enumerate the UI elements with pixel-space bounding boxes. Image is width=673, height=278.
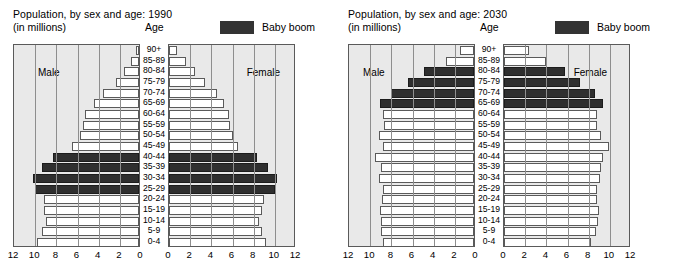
age-label: 5-9 — [475, 226, 503, 235]
bar-population — [504, 217, 598, 226]
bar-baby-boom — [408, 78, 474, 87]
legend-label-baby-boom: Baby boom — [597, 21, 650, 34]
bar-population — [504, 131, 601, 140]
age-label: 15-19 — [140, 205, 168, 214]
age-label: 80-84 — [140, 66, 168, 75]
chart-subtitle-1990: (in millions) — [13, 21, 66, 34]
age-label: 40-44 — [475, 152, 503, 161]
chart-title-2030: Population, by sex and age: 2030 — [348, 8, 507, 21]
gridline-10 — [275, 45, 276, 246]
age-label: 50-54 — [475, 130, 503, 139]
gridline-8 — [56, 45, 57, 246]
bar-population — [169, 238, 266, 247]
age-label: 25-29 — [475, 184, 503, 193]
bar-baby-boom — [35, 185, 139, 194]
age-label: 35-39 — [140, 162, 168, 171]
axis-tick: 6 — [224, 249, 240, 261]
age-label: 75-79 — [140, 77, 168, 86]
axis-tick: 2 — [516, 249, 532, 261]
age-label-column-2030: 90+85-8980-8475-7970-7465-6960-6455-5950… — [475, 44, 503, 247]
gridline-6 — [413, 45, 414, 246]
bar-population — [504, 185, 597, 194]
bar-population — [94, 99, 140, 108]
axis-tick: 8 — [382, 249, 398, 261]
gridline-2 — [525, 45, 526, 246]
axis-tick: 10 — [601, 249, 617, 261]
bar-population — [72, 142, 139, 151]
bar-population — [169, 46, 177, 55]
bar-population — [504, 110, 597, 119]
bar-population — [44, 195, 139, 204]
bar-population — [375, 153, 474, 162]
bar-population — [131, 57, 139, 66]
bar-population — [124, 67, 139, 76]
bar-baby-boom — [380, 99, 474, 108]
age-label: 45-49 — [140, 141, 168, 150]
gridline-4 — [434, 45, 435, 246]
baby-boom-swatch-icon — [220, 21, 254, 34]
axis-tick: 6 — [404, 249, 420, 261]
bar-population — [169, 89, 217, 98]
bar-population — [85, 110, 139, 119]
bar-population — [169, 67, 195, 76]
bar-population — [169, 195, 264, 204]
bar-population — [384, 121, 474, 130]
bar-population — [504, 163, 601, 172]
male-x-axis-1990: 121086420 — [13, 249, 140, 261]
male-x-axis-2030: 121086420 — [348, 249, 475, 261]
gridline-6 — [568, 45, 569, 246]
bar-baby-boom — [33, 174, 139, 183]
population-pyramid-figure: Population, by sex and age: 1990 (in mil… — [0, 0, 673, 278]
age-label: 90+ — [140, 45, 168, 54]
age-label: 75-79 — [475, 77, 503, 86]
bar-population — [80, 131, 139, 140]
bar-population — [504, 238, 591, 247]
age-label: 60-64 — [475, 109, 503, 118]
bar-population — [383, 110, 474, 119]
axis-tick: 12 — [287, 249, 303, 261]
age-label: 40-44 — [140, 152, 168, 161]
axis-tick: 10 — [361, 249, 377, 261]
axis-tick: 2 — [111, 249, 127, 261]
age-label: 30-34 — [475, 173, 503, 182]
chart-panel-1990: Population, by sex and age: 1990 (in mil… — [0, 0, 329, 278]
axis-tick: 4 — [537, 249, 553, 261]
age-label: 50-54 — [140, 130, 168, 139]
age-label: 45-49 — [475, 141, 503, 150]
bar-baby-boom — [504, 89, 595, 98]
axis-tick: 6 — [559, 249, 575, 261]
bar-population — [44, 206, 139, 215]
gridline-2 — [455, 45, 456, 246]
bar-population — [169, 78, 205, 87]
axis-tick: 12 — [340, 249, 356, 261]
bar-population — [383, 185, 474, 194]
age-label: 35-39 — [475, 162, 503, 171]
bar-population — [504, 121, 597, 130]
bar-baby-boom — [169, 153, 257, 162]
bar-population — [169, 99, 224, 108]
gridline-8 — [254, 45, 255, 246]
chart-header-2030: Population, by sex and age: 2030 (in mil… — [348, 8, 664, 42]
bar-population — [504, 142, 609, 151]
age-label: 85-89 — [140, 56, 168, 65]
bar-baby-boom — [53, 153, 139, 162]
bar-population — [379, 131, 474, 140]
age-label: 90+ — [475, 45, 503, 54]
axis-tick: 12 — [5, 249, 21, 261]
bar-population — [169, 57, 186, 66]
age-label: 70-74 — [140, 88, 168, 97]
female-plot-area-2030: Female — [503, 44, 630, 247]
age-label: 10-14 — [475, 216, 503, 225]
gridline-4 — [546, 45, 547, 246]
bar-population — [383, 142, 474, 151]
bar-population — [46, 217, 139, 226]
age-label: 15-19 — [475, 205, 503, 214]
bar-population — [383, 238, 474, 247]
axis-tick: 4 — [425, 249, 441, 261]
legend-label-baby-boom: Baby boom — [262, 21, 315, 34]
bar-population — [169, 131, 233, 140]
bar-population — [169, 110, 229, 119]
bar-baby-boom — [504, 78, 580, 87]
age-label: 65-69 — [475, 98, 503, 107]
age-label: 25-29 — [140, 184, 168, 193]
